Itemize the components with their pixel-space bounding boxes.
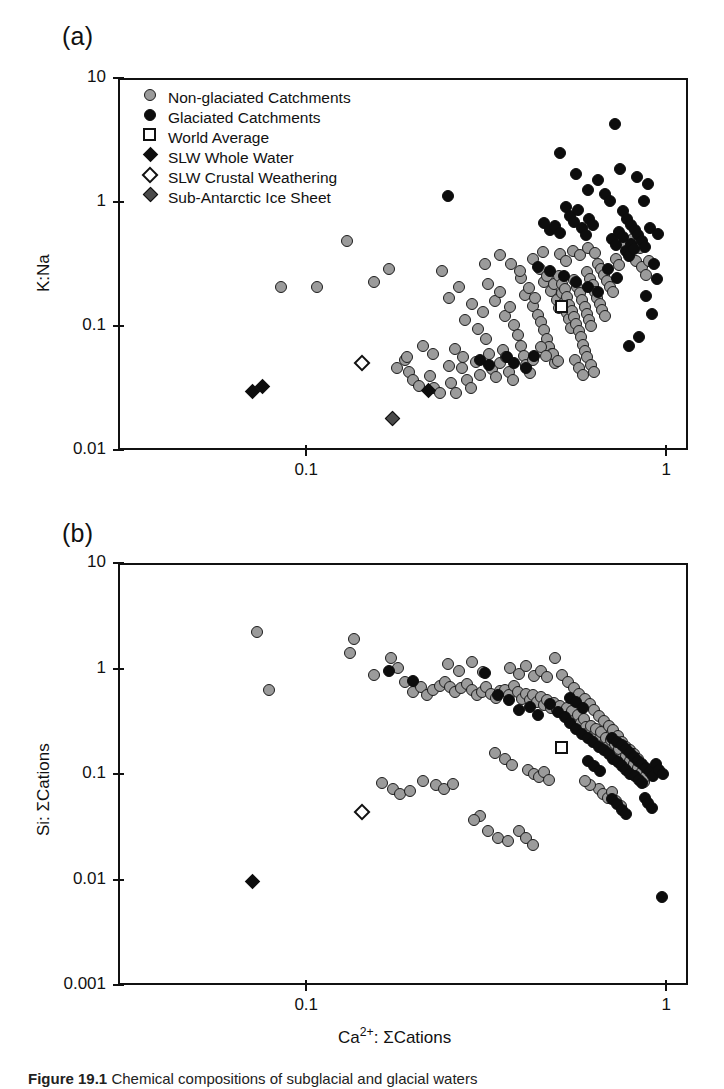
- x-tick-mark: [305, 980, 307, 991]
- data-point-circle-gray: [613, 259, 625, 271]
- data-point-circle-gray: [599, 310, 611, 322]
- data-point-circle-gray: [549, 652, 561, 664]
- data-point-circle-black: [554, 147, 566, 159]
- caption-figure-number: Figure 19.1: [28, 1070, 107, 1087]
- legend-item-5[interactable]: Sub-Antarctic Ice Sheet: [142, 188, 351, 207]
- data-point-circle-gray: [466, 656, 478, 668]
- y-tick-label: 0.1: [48, 315, 106, 335]
- x-tick-mark: [665, 445, 667, 456]
- data-point-circle-black: [582, 184, 594, 196]
- data-point-circle-black: [604, 195, 616, 207]
- data-point-circle-black: [611, 272, 623, 284]
- data-point-circle-black: [648, 258, 660, 270]
- data-point-circle-gray: [368, 669, 380, 681]
- data-point-circle-black: [639, 241, 651, 253]
- data-point-circle-gray: [474, 369, 486, 381]
- legend-item-3[interactable]: SLW Whole Water: [142, 148, 351, 167]
- data-point-circle-gray: [468, 814, 480, 826]
- data-point-circle-black: [558, 270, 570, 282]
- data-point-circle-gray: [541, 671, 553, 683]
- y-tick-mark: [113, 668, 124, 670]
- data-point-circle-gray: [457, 351, 469, 363]
- data-point-circle-black: [623, 340, 635, 352]
- data-point-diamond-black: [245, 874, 261, 890]
- legend-label: SLW Whole Water: [168, 149, 294, 167]
- y-tick-label: 10: [48, 67, 106, 87]
- data-point-diamond-gray: [385, 410, 401, 426]
- legend-marker-diamond-black-icon: [142, 148, 164, 167]
- data-point-circle-gray: [477, 306, 489, 318]
- panel-a: (a) K:Na Non-glaciated CatchmentsGlaciat…: [0, 0, 724, 515]
- data-point-circle-black: [656, 891, 668, 903]
- data-point-circle-gray: [466, 298, 478, 310]
- data-point-square-open: [555, 741, 568, 754]
- data-point-diamond-gray: [142, 187, 158, 203]
- data-point-circle-gray: [263, 684, 275, 696]
- y-tick-label: 10: [48, 552, 106, 572]
- data-point-circle-gray: [589, 247, 601, 259]
- data-point-circle-gray: [453, 665, 465, 677]
- data-point-circle-black: [651, 273, 663, 285]
- data-point-circle-gray: [480, 333, 492, 345]
- data-point-diamond-open: [353, 804, 370, 821]
- data-point-circle-black: [554, 227, 566, 239]
- data-point-circle-gray: [482, 278, 494, 290]
- data-point-circle-gray: [341, 235, 353, 247]
- data-point-circle-gray: [368, 276, 380, 288]
- legend-item-1[interactable]: Glaciated Catchments: [142, 108, 351, 127]
- x-tick-label: 1: [646, 995, 686, 1015]
- y-tick-mark: [113, 984, 124, 986]
- y-tick-mark: [113, 562, 124, 564]
- legend-label: SLW Crustal Weathering: [168, 169, 337, 187]
- data-point-circle-gray: [144, 89, 156, 101]
- data-point-circle-gray: [442, 658, 454, 670]
- data-point-circle-gray: [529, 292, 541, 304]
- data-point-circle-gray: [450, 387, 462, 399]
- legend-marker-circle-black-icon: [142, 108, 164, 127]
- caption-text: Chemical compositions of subglacial and …: [111, 1070, 477, 1087]
- data-point-circle-gray: [504, 301, 516, 313]
- legend-item-4[interactable]: SLW Crustal Weathering: [142, 168, 351, 187]
- data-point-circle-gray: [537, 246, 549, 258]
- data-point-circle-gray: [479, 258, 491, 270]
- data-point-circle-gray: [436, 265, 448, 277]
- legend: Non-glaciated CatchmentsGlaciated Catchm…: [142, 88, 351, 207]
- data-point-circle-gray: [443, 360, 455, 372]
- data-point-circle-gray: [427, 348, 439, 360]
- data-point-circle-black: [532, 709, 544, 721]
- data-point-circle-gray: [348, 633, 360, 645]
- data-point-circle-black: [636, 777, 648, 789]
- data-point-circle-black: [652, 228, 664, 240]
- data-point-circle-gray: [489, 747, 501, 759]
- y-tick-label: 0.01: [48, 869, 106, 889]
- data-point-circle-gray: [251, 626, 263, 638]
- data-point-circle-black: [570, 168, 582, 180]
- data-point-circle-black: [503, 694, 515, 706]
- x-tick-label: 0.1: [286, 995, 326, 1015]
- data-point-circle-gray: [540, 350, 552, 362]
- data-point-circle-gray: [527, 839, 539, 851]
- data-point-circle-gray: [490, 371, 502, 383]
- y-tick-mark: [113, 449, 124, 451]
- data-point-circle-black: [513, 704, 525, 716]
- data-point-circle-gray: [465, 382, 477, 394]
- data-point-circle-black: [479, 667, 491, 679]
- data-point-circle-black: [544, 265, 556, 277]
- data-point-circle-black: [592, 174, 604, 186]
- y-tick-mark: [113, 773, 124, 775]
- data-point-diamond-open: [353, 354, 370, 371]
- legend-label: World Average: [168, 129, 269, 147]
- data-point-circle-gray: [391, 362, 403, 374]
- x-tick-mark: [305, 445, 307, 456]
- y-tick-label: 1: [48, 191, 106, 211]
- legend-item-2[interactable]: World Average: [142, 128, 351, 147]
- panel-a-plot-area: Non-glaciated CatchmentsGlaciated Catchm…: [118, 78, 688, 450]
- legend-item-0[interactable]: Non-glaciated Catchments: [142, 88, 351, 107]
- legend-marker-circle-gray-icon: [142, 88, 164, 107]
- x-tick-label: 1: [646, 460, 686, 480]
- data-point-circle-black: [528, 350, 540, 362]
- data-point-circle-black: [646, 308, 658, 320]
- data-point-circle-black: [638, 195, 650, 207]
- y-tick-label: 0.001: [48, 974, 106, 994]
- data-point-square-open: [143, 128, 156, 141]
